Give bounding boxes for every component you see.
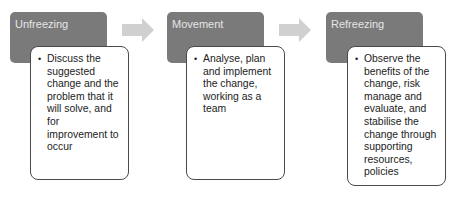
stage-title: Refreezing: [331, 18, 384, 30]
stage-bullet: Discuss the suggested change and the pro…: [47, 53, 122, 154]
right-arrow-icon: [279, 18, 311, 42]
stage-bullet: Analyse, plan and implement the change, …: [203, 53, 278, 116]
stage-title: Movement: [172, 18, 223, 30]
right-arrow-icon: [122, 18, 154, 42]
stage-card: Discuss the suggested change and the pro…: [30, 46, 129, 180]
stage-card: Observe the benefits of the change, risk…: [347, 46, 446, 186]
stage-bullet: Observe the benefits of the change, risk…: [364, 53, 439, 179]
stage-card: Analyse, plan and implement the change, …: [186, 46, 285, 180]
stage-title: Unfreezing: [15, 18, 68, 30]
